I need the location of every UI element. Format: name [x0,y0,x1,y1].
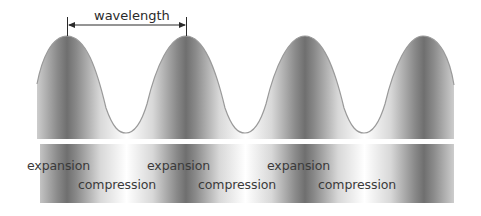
compression-label-2: compression [198,179,276,192]
compression-label-1: compression [78,179,156,192]
compression-label-3: compression [318,179,396,192]
density-band [40,144,454,203]
expansion-label-2: expansion [147,160,210,173]
expansion-label-1: expansion [27,160,90,173]
expansion-label-3: expansion [267,160,330,173]
wavelength-label: wavelength [94,9,170,22]
wave-band [37,30,454,139]
